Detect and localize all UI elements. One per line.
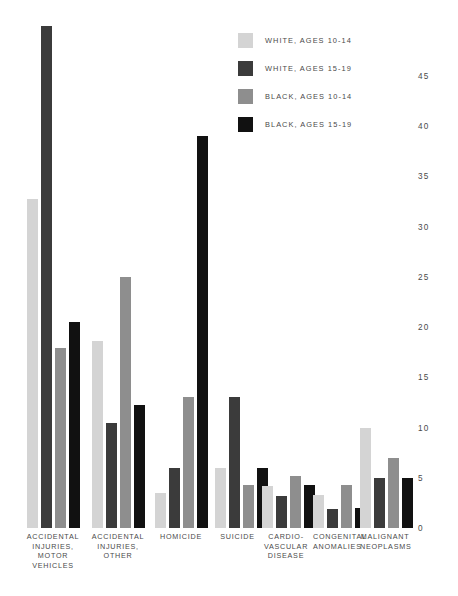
bar[interactable] — [360, 428, 371, 528]
bar[interactable] — [290, 476, 301, 528]
bar-group: SUICIDE — [215, 0, 260, 596]
bar-group: ACCIDENTALINJURIES,OTHER — [88, 0, 148, 596]
bar[interactable] — [41, 26, 52, 528]
y-axis-tick-label: 30 — [418, 222, 444, 231]
bar-group: HOMICIDE — [152, 0, 210, 596]
x-axis-category-label-line: ACCIDENTAL — [88, 532, 148, 542]
bar[interactable] — [197, 136, 208, 528]
y-axis-tick-label: 45 — [418, 72, 444, 81]
bar[interactable] — [215, 468, 226, 528]
bar[interactable] — [402, 478, 413, 528]
bar-group-bars — [215, 26, 260, 528]
bar[interactable] — [313, 495, 324, 528]
y-axis-tick-label: 10 — [418, 423, 444, 432]
y-axis-tick-label: 35 — [418, 172, 444, 181]
x-axis-category-label-line: OTHER — [88, 551, 148, 561]
bar[interactable] — [169, 468, 180, 528]
bar[interactable] — [374, 478, 385, 528]
x-axis-category-label-line: VEHICLES — [22, 561, 84, 571]
bar[interactable] — [134, 405, 145, 528]
bar-group-bars — [22, 26, 84, 528]
y-axis-tick-label: 5 — [418, 473, 444, 482]
bar[interactable] — [243, 485, 254, 528]
x-axis-category-label-line: DISEASE — [262, 551, 310, 561]
x-axis-category-label-line: MOTOR — [22, 551, 84, 561]
x-axis-category-label-line: VASCULAR — [262, 542, 310, 552]
bar-group: CARDIO-VASCULARDISEASE — [262, 0, 310, 596]
bar[interactable] — [27, 199, 38, 528]
bar[interactable] — [388, 458, 399, 528]
bar[interactable] — [229, 397, 240, 528]
x-axis-category-label: SUICIDE — [215, 532, 260, 542]
bar-group: ACCIDENTALINJURIES,MOTORVEHICLES — [22, 0, 84, 596]
y-axis-tick-label: 25 — [418, 272, 444, 281]
x-axis-category-label-line: HOMICIDE — [152, 532, 210, 542]
bar-chart: WHITE, AGES 10-14WHITE, AGES 15-19BLACK,… — [0, 0, 458, 596]
bar[interactable] — [276, 496, 287, 528]
bar-group-bars — [313, 26, 360, 528]
bar[interactable] — [106, 423, 117, 528]
x-axis-category-label-line: CONGENITAL — [313, 532, 360, 542]
y-axis-tick-label: 15 — [418, 373, 444, 382]
y-axis-tick-label: 0 — [418, 524, 444, 533]
x-axis-category-label: HOMICIDE — [152, 532, 210, 542]
plot-area: ACCIDENTALINJURIES,MOTORVEHICLESACCIDENT… — [0, 0, 410, 596]
bar[interactable] — [262, 486, 273, 528]
bar-group: MALIGNANTNEOPLASMS — [360, 0, 410, 596]
x-axis-category-label: CARDIO-VASCULARDISEASE — [262, 532, 310, 561]
bar-group: CONGENITALANOMALIES — [313, 0, 360, 596]
y-axis-tick-label: 40 — [418, 122, 444, 131]
bar-group-bars — [262, 26, 310, 528]
bar-group-bars — [152, 26, 210, 528]
x-axis-category-label: ACCIDENTALINJURIES,MOTORVEHICLES — [22, 532, 84, 570]
bar[interactable] — [155, 493, 166, 528]
x-axis-category-label-line: INJURIES, — [22, 542, 84, 552]
x-axis-category-label: MALIGNANTNEOPLASMS — [360, 532, 410, 551]
bar[interactable] — [92, 341, 103, 528]
bar[interactable] — [120, 277, 131, 528]
x-axis-category-label-line: SUICIDE — [215, 532, 260, 542]
x-axis-category-label-line: NEOPLASMS — [360, 542, 410, 552]
x-axis-category-label: CONGENITALANOMALIES — [313, 532, 360, 551]
bar[interactable] — [69, 322, 80, 528]
bar[interactable] — [327, 509, 338, 528]
bar-group-bars — [88, 26, 148, 528]
y-axis: 454035302520151050 — [418, 0, 448, 596]
x-axis-category-label-line: MALIGNANT — [360, 532, 410, 542]
x-axis-category-label-line: ACCIDENTAL — [22, 532, 84, 542]
bar-group-bars — [360, 26, 410, 528]
x-axis-category-label-line: INJURIES, — [88, 542, 148, 552]
bar[interactable] — [55, 348, 66, 528]
bar[interactable] — [183, 397, 194, 528]
x-axis-category-label-line: ANOMALIES — [313, 542, 360, 552]
x-axis-category-label: ACCIDENTALINJURIES,OTHER — [88, 532, 148, 561]
y-axis-tick-label: 20 — [418, 323, 444, 332]
x-axis-category-label-line: CARDIO- — [262, 532, 310, 542]
bar[interactable] — [341, 485, 352, 528]
